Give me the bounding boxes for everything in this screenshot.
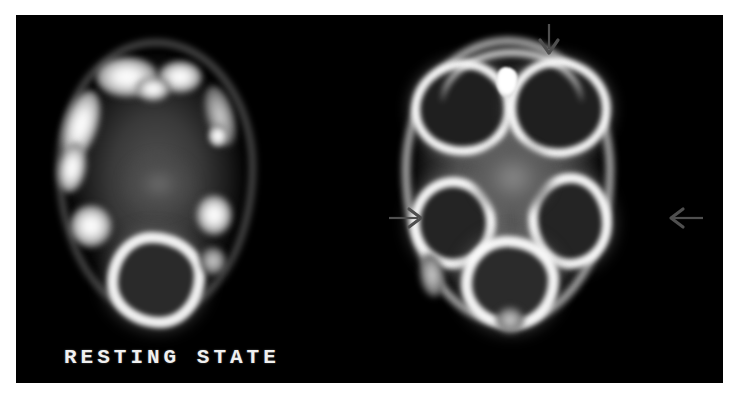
right-temporal-activation-ring	[538, 183, 602, 259]
deep-grey-matter	[474, 143, 552, 213]
left-temporal-activation-ring	[420, 187, 486, 259]
figure-root: RESTING STATE	[0, 0, 730, 411]
posterior-midline-focus	[496, 307, 524, 333]
scan-resting-state: RESTING STATE	[18, 15, 368, 345]
brain-image-resting	[18, 15, 368, 345]
arrow-down-icon	[536, 23, 562, 57]
scan-language-and-music: LANGUAGE AND MUSIC	[368, 15, 718, 345]
arrow-right-icon	[388, 205, 424, 231]
hotspot-left-temporal	[70, 205, 112, 247]
occipital-ring	[118, 243, 194, 317]
caption-resting-state: RESTING STATE	[64, 346, 280, 369]
brain-image-task	[368, 15, 718, 345]
imaging-panel: RESTING STATE	[16, 15, 723, 383]
hotspot-right-frontal-focus	[208, 125, 228, 147]
arrow-left-icon	[662, 205, 704, 231]
deep-grey-matter	[124, 155, 194, 213]
hotspot-right-posterior	[200, 247, 226, 275]
hotspot-frontal-midline	[136, 77, 170, 101]
hotspot-right-temporal	[196, 195, 232, 235]
